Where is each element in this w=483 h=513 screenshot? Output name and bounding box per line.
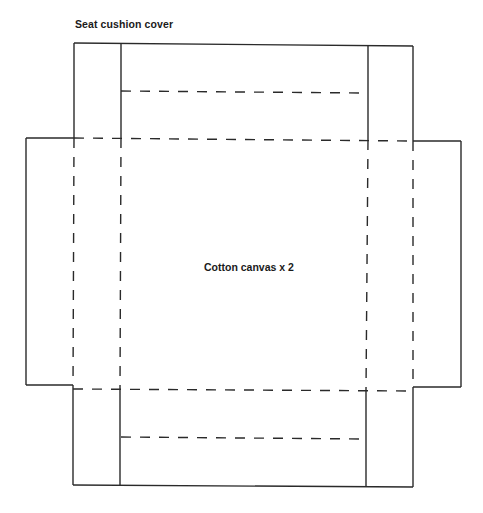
fabric-label: Cotton canvas x 2 — [204, 261, 294, 273]
top-strip-top-edge — [74, 43, 413, 46]
right-inner-seam-line — [366, 140, 368, 391]
bottom-fold-line — [121, 437, 366, 439]
lower-seam-line — [73, 389, 413, 391]
sewing-pattern-diagram — [0, 0, 483, 513]
top-fold-line — [121, 91, 367, 93]
left-inner-seam-line — [120, 138, 121, 389]
bottom-strip-bottom-edge — [73, 485, 413, 487]
left-outer-seam-line — [73, 138, 74, 389]
upper-seam-line — [74, 138, 413, 141]
